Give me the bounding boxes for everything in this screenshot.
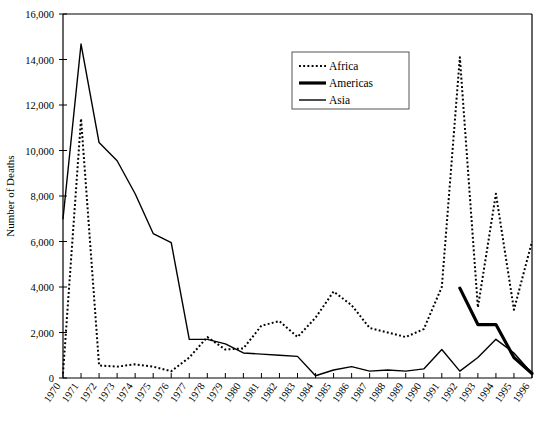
x-tick-label: 1980 [222, 381, 243, 405]
legend-label-africa: Africa [329, 60, 358, 72]
x-tick-label: 1973 [96, 381, 117, 405]
x-tick-label: 1985 [312, 381, 333, 405]
x-tick-label: 1974 [114, 380, 135, 404]
x-tick-label: 1983 [276, 381, 297, 405]
x-tick-label: 1988 [366, 381, 387, 405]
x-tick-label: 1984 [294, 380, 315, 404]
y-tick-label: 6,000 [30, 237, 54, 248]
x-tick-label: 1972 [78, 381, 99, 405]
x-tick-label: 1982 [258, 381, 279, 405]
x-tick-label: 1994 [475, 380, 496, 404]
y-axis-title: Number of Deaths [4, 155, 16, 236]
x-tick-label: 1975 [132, 381, 153, 405]
x-tick-label: 1986 [330, 381, 351, 405]
y-tick-label: 14,000 [25, 55, 54, 66]
x-tick-label: 1987 [348, 381, 369, 405]
x-tick-label: 1995 [493, 381, 514, 405]
x-tick-label: 1977 [168, 381, 189, 405]
line-chart: 02,0004,0006,0008,00010,00012,00014,0001… [0, 0, 552, 422]
x-tick-label: 1981 [240, 381, 261, 405]
legend-label-americas: Americas [329, 77, 374, 89]
x-axis-ticks [63, 373, 532, 378]
legend-label-asia: Asia [329, 94, 350, 106]
x-tick-label: 1990 [402, 381, 423, 405]
chart-legend: AfricaAmericasAsia [292, 52, 409, 109]
x-tick-label: 1971 [60, 381, 81, 405]
x-tick-label: 1992 [438, 381, 459, 405]
x-axis-tick-labels: 1970197119721973197419751976197719781979… [42, 380, 532, 404]
y-tick-label: 8,000 [30, 191, 54, 202]
y-tick-label: 2,000 [30, 328, 54, 339]
x-tick-label: 1970 [42, 381, 63, 405]
y-tick-label: 10,000 [25, 146, 54, 157]
x-tick-label: 1976 [150, 381, 171, 405]
y-tick-label: 16,000 [25, 9, 54, 20]
x-tick-label: 1991 [420, 381, 441, 405]
y-axis-tick-labels: 02,0004,0006,0008,00010,00012,00014,0001… [25, 9, 54, 384]
y-tick-label: 12,000 [25, 100, 54, 111]
x-tick-label: 1989 [384, 381, 405, 405]
y-tick-label: 4,000 [30, 282, 54, 293]
chart-container: 02,0004,0006,0008,00010,00012,00014,0001… [0, 0, 552, 422]
x-tick-label: 1996 [511, 381, 532, 405]
x-tick-label: 1993 [456, 381, 477, 405]
x-tick-label: 1978 [186, 381, 207, 405]
x-tick-label: 1979 [204, 381, 225, 405]
